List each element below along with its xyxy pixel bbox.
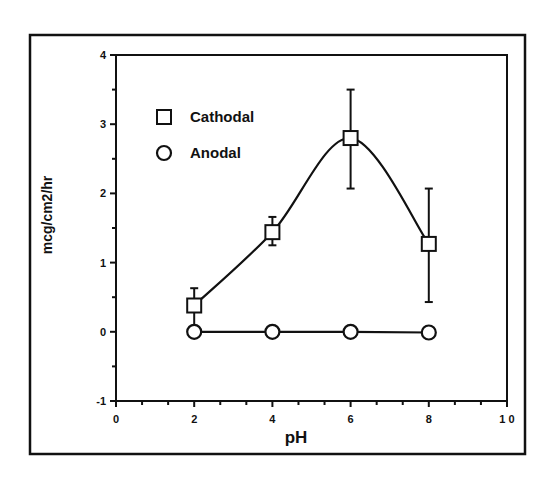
series-line	[194, 332, 429, 333]
y-tick-label: 3	[100, 118, 106, 130]
circle-marker	[344, 325, 358, 339]
square-marker	[344, 131, 358, 145]
legend-item-anodal: Anodal	[157, 144, 241, 161]
circle-marker	[187, 325, 201, 339]
y-tick-label: 0	[100, 326, 106, 338]
axes: -101234024681 0	[96, 49, 514, 425]
square-marker	[422, 237, 436, 251]
legend: CathodalAnodal	[157, 108, 254, 161]
x-tick-label: 6	[348, 413, 354, 425]
circle-marker	[422, 325, 436, 339]
outer-frame	[30, 35, 525, 454]
y-tick-label: 1	[100, 257, 106, 269]
y-tick-label: 2	[100, 187, 106, 199]
x-tick-label: 0	[113, 413, 119, 425]
x-tick-label: 2	[191, 413, 197, 425]
y-axis-title: mcg/cm2/hr	[39, 175, 55, 254]
y-tick-label: 4	[100, 49, 107, 61]
plot-area	[116, 55, 507, 401]
series-line	[194, 138, 429, 306]
x-tick-label: 4	[269, 413, 276, 425]
data-series	[187, 90, 436, 340]
x-tick-label: 1 0	[499, 413, 514, 425]
y-tick-label: -1	[96, 395, 106, 407]
square-marker	[187, 299, 201, 313]
circle-marker	[265, 325, 279, 339]
x-axis-title: pH	[285, 428, 308, 447]
legend-item-cathodal: Cathodal	[157, 108, 254, 125]
plot-frame	[116, 55, 507, 401]
series-cathodal	[187, 90, 436, 332]
series-anodal	[187, 325, 436, 340]
x-tick-label: 8	[426, 413, 432, 425]
legend-square-icon	[157, 110, 171, 124]
chart: -101234024681 0 CathodalAnodal pH mcg/cm…	[0, 0, 545, 481]
square-marker	[265, 225, 279, 239]
legend-circle-icon	[157, 146, 171, 160]
legend-label: Cathodal	[190, 108, 254, 125]
legend-label: Anodal	[190, 144, 241, 161]
